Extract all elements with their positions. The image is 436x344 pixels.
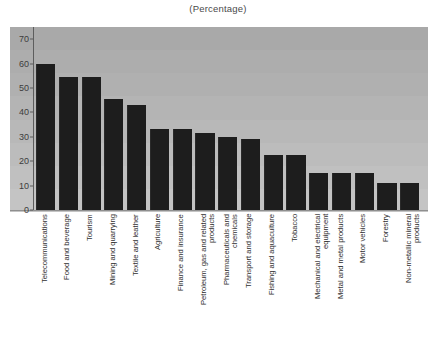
bar bbox=[400, 183, 419, 210]
y-axis-tick-mark bbox=[30, 161, 33, 162]
x-axis-category-label: Telecommunications bbox=[41, 214, 49, 340]
bar bbox=[127, 105, 146, 210]
bars-layer: TelecommunicationsFood and beverageTouri… bbox=[0, 0, 436, 344]
x-axis-category-label: Agriculture bbox=[154, 214, 162, 340]
x-axis-category-label: Non-metallic mineral products bbox=[405, 214, 422, 340]
bar bbox=[82, 77, 101, 210]
x-axis-category-label: Fishing and aquaculture bbox=[268, 214, 276, 340]
x-axis-category-label: Petroleum, gas and related products bbox=[200, 214, 217, 340]
y-axis-tick-mark bbox=[30, 185, 33, 186]
y-axis-tick-mark bbox=[30, 63, 33, 64]
bar bbox=[195, 133, 214, 210]
x-axis-category-label: Motor vehicles bbox=[359, 214, 367, 340]
x-axis-category-label: Transport and storage bbox=[245, 214, 253, 340]
x-axis-category-label: Forestry bbox=[382, 214, 390, 340]
x-axis-category-label: Pharmaceuticals and chemicals bbox=[223, 214, 240, 340]
x-axis-category-label: Mining and quarrying bbox=[109, 214, 117, 340]
bar bbox=[286, 155, 305, 210]
y-axis-tick-mark bbox=[30, 39, 33, 40]
bar bbox=[173, 129, 192, 210]
bar bbox=[241, 139, 260, 210]
x-axis-category-label: Metal and metal products bbox=[337, 214, 345, 340]
bar bbox=[104, 99, 123, 210]
y-axis-tick-mark bbox=[30, 210, 33, 211]
bar bbox=[355, 173, 374, 210]
x-axis-category-label: Mechanical and electrical equipment bbox=[314, 214, 331, 340]
x-axis-category-label: Tobacco bbox=[291, 214, 299, 340]
bar bbox=[59, 77, 78, 210]
bar bbox=[309, 173, 328, 210]
x-axis-category-label: Food and beverage bbox=[63, 214, 71, 340]
bar bbox=[36, 64, 55, 210]
bar bbox=[218, 137, 237, 210]
bar-chart-figure: (Percentage) 010203040506070 Telecommuni… bbox=[0, 0, 436, 344]
bar bbox=[332, 173, 351, 210]
x-axis-category-label: Textile and leather bbox=[132, 214, 140, 340]
x-axis-category-label: Tourism bbox=[86, 214, 94, 340]
y-axis-tick-mark bbox=[30, 112, 33, 113]
bar bbox=[377, 183, 396, 210]
bar bbox=[264, 155, 283, 210]
y-axis-tick-mark bbox=[30, 88, 33, 89]
x-axis-category-label: Finance and insurance bbox=[177, 214, 185, 340]
bar bbox=[150, 129, 169, 210]
y-axis-tick-mark bbox=[30, 136, 33, 137]
